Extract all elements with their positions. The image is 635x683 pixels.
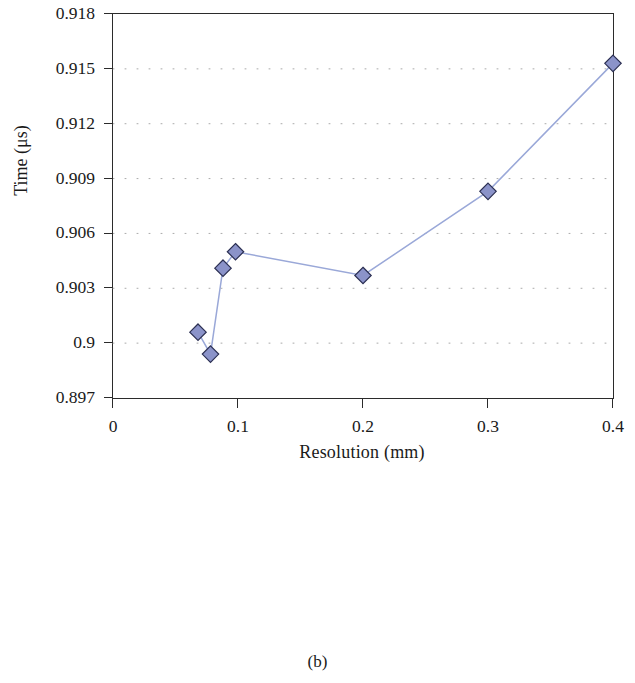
y-axis-tick <box>104 287 113 288</box>
x-axis-title: Resolution (mm) <box>112 442 612 463</box>
data-point-markers <box>190 55 621 362</box>
x-axis-tick <box>237 398 238 408</box>
y-axis-tick <box>104 178 113 179</box>
y-axis-tick <box>104 233 113 234</box>
plot-area: 0.8970.90.9030.9060.9090.9120.9150.918 0… <box>112 13 614 399</box>
x-axis-tick-label: 0.2 <box>352 418 374 436</box>
data-series-layer <box>113 14 613 398</box>
data-point-marker <box>215 260 231 276</box>
x-axis-tick-label: 0.4 <box>602 418 624 436</box>
y-axis-tick-label: 0.9 <box>7 334 95 352</box>
x-axis-tick <box>362 398 363 408</box>
x-axis-tick <box>112 398 113 408</box>
series-line <box>198 63 613 354</box>
y-axis-tick-label: 0.906 <box>7 224 95 242</box>
figure-panel: Time (μs) 0.8970.90.9030.9060.9090.9120.… <box>0 0 635 683</box>
x-axis-tick-label: 0.3 <box>477 418 499 436</box>
figure-caption: (b) <box>0 652 635 672</box>
y-axis-tick <box>104 13 113 14</box>
data-point-marker <box>227 244 243 260</box>
y-axis-tick-label: 0.915 <box>7 60 95 78</box>
x-axis-tick-label: 0 <box>109 418 118 436</box>
x-axis-tick <box>487 398 488 408</box>
data-point-marker <box>355 267 371 283</box>
y-axis-tick-label: 0.903 <box>7 279 95 297</box>
data-point-marker <box>202 346 218 362</box>
y-axis-tick <box>104 68 113 69</box>
y-axis-tick-label: 0.918 <box>7 5 95 23</box>
y-axis-tick-label: 0.897 <box>7 389 95 407</box>
x-axis-tick <box>612 398 613 408</box>
y-axis-tick <box>104 123 113 124</box>
data-point-marker <box>190 324 206 340</box>
x-axis-tick-label: 0.1 <box>227 418 249 436</box>
y-axis-tick-label: 0.912 <box>7 115 95 133</box>
y-axis-tick-label: 0.909 <box>7 170 95 188</box>
y-axis-tick <box>104 342 113 343</box>
